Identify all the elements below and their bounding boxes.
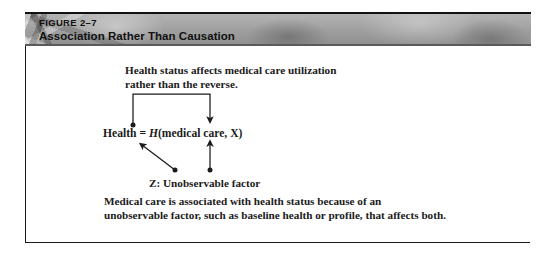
bottom-caption-text: Medical care is associated with health s…: [104, 195, 446, 222]
figure-number: FIGURE 2–7: [39, 16, 235, 29]
z-factor-label: Z: Unobservable factor: [149, 177, 260, 191]
equation-arguments: (medical care, X): [158, 127, 242, 140]
figure-title: Association Rather Than Causation: [39, 29, 235, 44]
z-to-medical-care-arrow: [208, 143, 213, 173]
header-label-group: FIGURE 2–7 Association Rather Than Causa…: [39, 16, 235, 44]
reverse-causation-bracket-arrow: [131, 94, 211, 128]
health-equation: Health = H(medical care, X): [103, 127, 242, 141]
z-to-health-arrow: [142, 145, 178, 173]
figure-header: FIGURE 2–7 Association Rather Than Causa…: [25, 12, 531, 46]
figure-diagram: Health status affects medical care utili…: [25, 46, 530, 243]
equation-left-side: Health =: [103, 127, 149, 140]
top-caption-text: Health status affects medical care utili…: [125, 64, 336, 91]
equation-function-symbol: H: [149, 127, 158, 140]
